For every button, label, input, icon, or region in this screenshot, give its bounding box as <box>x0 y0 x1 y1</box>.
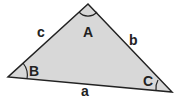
side-label-b: b <box>129 32 138 48</box>
side-label-a: a <box>81 83 89 97</box>
triangle-diagram: A B C c b a <box>0 0 177 97</box>
angle-label-c: C <box>143 73 153 89</box>
side-label-c: c <box>37 24 45 40</box>
angle-label-b: B <box>29 63 39 79</box>
angle-label-a: A <box>83 24 93 40</box>
